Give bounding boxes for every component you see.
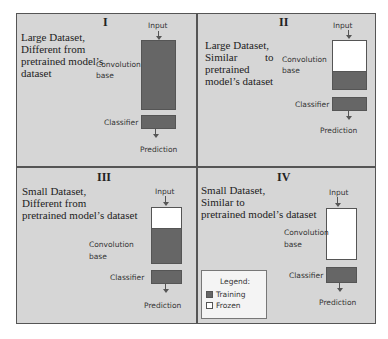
desc-line: Different from [22, 197, 137, 209]
arrow-down-icon [158, 31, 159, 37]
classifier-training [141, 115, 176, 129]
desc-line: pretrained [205, 63, 280, 75]
desc-line: model’s dataset [205, 75, 280, 87]
desc-line: Similar to [205, 51, 280, 63]
convolution-base-training [141, 40, 176, 110]
panel-description: Small Dataset, Similar to pretrained mod… [201, 184, 316, 220]
legend-label-training: Training [216, 290, 246, 299]
arrow-down-icon [339, 283, 340, 289]
desc-line: dataset [21, 67, 103, 79]
classifier-label: Classifier [289, 271, 323, 280]
panel-numeral: II [279, 15, 288, 30]
conv-label-line2: base [96, 71, 114, 80]
conv-label-line1: Convolution [89, 240, 134, 249]
panel-description: Small Dataset, Different from pretrained… [22, 185, 137, 221]
vertical-divider [196, 13, 198, 324]
desc-line: Similar to [201, 196, 316, 208]
classifier-label: Classifier [104, 118, 138, 127]
panel-description: Large Dataset, Similar to pretrained mod… [205, 39, 280, 87]
conv-label-line1: Convolution [284, 228, 329, 237]
legend-title: Legend: [220, 277, 250, 286]
panel-numeral: I [103, 15, 108, 30]
arrow-down-icon [348, 111, 349, 117]
input-label: Input [148, 21, 167, 30]
prediction-label: Prediction [319, 298, 356, 307]
desc-line: Different from [21, 43, 103, 55]
arrow-down-icon [165, 284, 166, 290]
panel-description: Large Dataset, Different from pretrained… [21, 31, 103, 79]
legend-swatch-training [206, 291, 213, 298]
desc-line: pretrained model’s [21, 55, 103, 67]
convolution-base-frozen [332, 40, 367, 72]
desc-line: Large Dataset, [205, 39, 280, 51]
legend-swatch-frozen [206, 302, 213, 309]
input-label: Input [333, 21, 352, 30]
conv-label-line1: Convolution [282, 55, 327, 64]
classifier-training [151, 270, 182, 284]
conv-label-line2: base [282, 66, 300, 75]
desc-line: pretrained model’s dataset [22, 209, 137, 221]
legend-label-frozen: Frozen [216, 301, 241, 310]
prediction-label: Prediction [140, 145, 177, 154]
panel-numeral: III [97, 170, 111, 185]
desc-line: Large Dataset, [21, 31, 103, 43]
classifier-training [326, 267, 357, 283]
arrow-down-icon [348, 30, 349, 36]
desc-line: pretrained model’s dataset [201, 208, 316, 220]
desc-line: Small Dataset, [201, 184, 316, 196]
classifier-label: Classifier [110, 273, 144, 282]
panel-numeral: IV [277, 170, 290, 185]
prediction-label: Prediction [320, 126, 357, 135]
convolution-base-training [151, 228, 182, 264]
convolution-base-frozen [326, 208, 357, 260]
input-label: Input [329, 188, 348, 197]
arrow-down-icon [165, 196, 166, 203]
desc-line: Small Dataset, [22, 185, 137, 197]
input-label: Input [155, 187, 174, 196]
conv-label-line1: Convolution [96, 60, 141, 69]
convolution-base-training [332, 71, 367, 90]
classifier-label: Classifier [295, 100, 329, 109]
conv-label-line2: base [284, 240, 302, 249]
convolution-base-frozen [151, 207, 182, 229]
arrow-down-icon [155, 129, 156, 135]
arrow-down-icon [337, 197, 338, 204]
classifier-training [332, 97, 367, 111]
horizontal-divider [16, 166, 376, 168]
prediction-label: Prediction [144, 301, 181, 310]
conv-label-line2: base [89, 252, 107, 261]
legend: Legend: Training Frozen [201, 270, 267, 319]
